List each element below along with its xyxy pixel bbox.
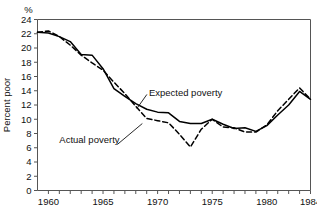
y-tick-label-12: 12 bbox=[21, 99, 32, 110]
y-tick-label-4: 4 bbox=[26, 156, 31, 167]
x-tick-label-1960: 1960 bbox=[38, 196, 59, 207]
y-tick-label-20: 20 bbox=[21, 42, 32, 53]
y-tick-label-8: 8 bbox=[26, 128, 31, 139]
x-axis-tick-labels: 196019651970197519801984 bbox=[38, 196, 317, 207]
x-tick-label-1975: 1975 bbox=[202, 196, 223, 207]
x-tick-label-1965: 1965 bbox=[92, 196, 113, 207]
y-tick-label-22: 22 bbox=[21, 28, 32, 39]
y-axis-tick-labels: 024681012141618202224 bbox=[21, 14, 32, 196]
actual-poverty-leader-line bbox=[117, 124, 142, 145]
actual-poverty-label: Actual poverty bbox=[59, 134, 119, 145]
poverty-line-chart: 024681012141618202224 196019651970197519… bbox=[0, 0, 317, 218]
axes-group bbox=[38, 20, 311, 191]
y-axis-ticks bbox=[34, 20, 38, 191]
y-axis-title: Percent poor bbox=[1, 78, 12, 132]
chart-canvas: 024681012141618202224 196019651970197519… bbox=[0, 0, 317, 218]
y-tick-label-2: 2 bbox=[26, 171, 31, 182]
x-tick-label-1984: 1984 bbox=[300, 196, 317, 207]
y-tick-label-6: 6 bbox=[26, 142, 31, 153]
y-tick-label-14: 14 bbox=[21, 85, 32, 96]
y-tick-label-16: 16 bbox=[21, 71, 32, 82]
expected-poverty-label: Expected poverty bbox=[149, 87, 223, 98]
y-tick-label-24: 24 bbox=[21, 14, 32, 25]
annotations-group: Expected poverty Actual poverty bbox=[59, 87, 222, 145]
x-axis-ticks bbox=[48, 191, 310, 195]
x-tick-label-1970: 1970 bbox=[147, 196, 168, 207]
x-tick-label-1980: 1980 bbox=[256, 196, 277, 207]
y-tick-label-18: 18 bbox=[21, 57, 32, 68]
percent-unit-label: % bbox=[24, 4, 33, 15]
actual-poverty-line bbox=[38, 32, 311, 131]
y-tick-label-10: 10 bbox=[21, 114, 32, 125]
y-tick-label-0: 0 bbox=[26, 185, 31, 196]
